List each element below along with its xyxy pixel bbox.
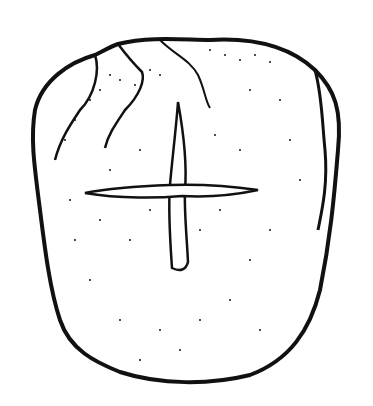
- stone-drawing: [0, 0, 373, 406]
- illustration-canvas: [0, 0, 373, 406]
- cross-horizontal: [85, 185, 258, 198]
- ridge-inner: [105, 44, 143, 148]
- right-edge-shade: [315, 70, 326, 230]
- ridge-top: [160, 40, 210, 108]
